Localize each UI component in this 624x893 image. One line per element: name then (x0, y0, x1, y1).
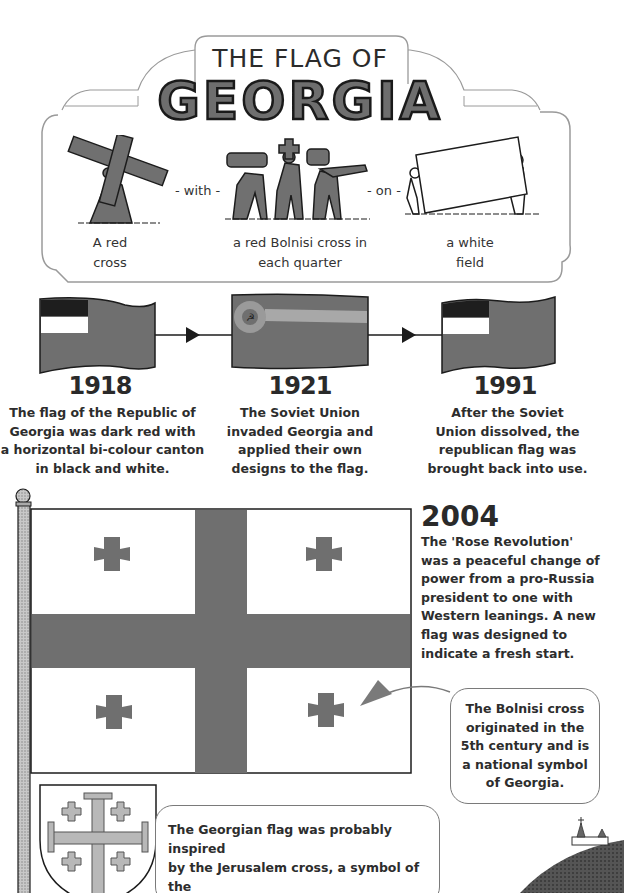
text-line: designs to the flag. (220, 460, 380, 479)
arrow-right-icon (402, 327, 416, 343)
year-1918: 1918 (50, 372, 150, 400)
jerusalem-text: The Georgian flag was probably inspired … (168, 820, 438, 893)
flag-cross-horizontal (32, 614, 410, 668)
text-line: brought back into use. (425, 460, 590, 479)
text-line: Georgia was dark red with (0, 423, 205, 442)
text-line: The Soviet Union (220, 404, 380, 423)
caption-red-cross: A red cross (75, 233, 145, 273)
flagpole-finial (16, 489, 30, 503)
text-line: After the Soviet (425, 404, 590, 423)
text-2004: The 'Rose Revolution' was a peaceful cha… (421, 533, 621, 663)
text-line: originated in the (460, 719, 590, 738)
text-line: a horizontal bi-colour canton (0, 441, 205, 460)
caption-line: cross (75, 253, 145, 273)
flag-1991 (442, 297, 555, 373)
text-line: in black and white. (0, 460, 205, 479)
caption-white-field: a white field (430, 233, 510, 273)
text-line: applied their own (220, 441, 380, 460)
text-1991: After the Soviet Union dissolved, the re… (425, 404, 590, 478)
men-carrying-white-field-illustration (405, 118, 540, 220)
svg-text:☭: ☭ (246, 312, 255, 323)
text-line: The 'Rose Revolution' (421, 533, 621, 552)
hill-with-church (520, 817, 624, 893)
text-line: of Georgia. (460, 774, 590, 793)
caption-bolnisi-cross: a red Bolnisi cross in each quarter (215, 233, 385, 273)
caption-line: each quarter (215, 253, 385, 273)
text-line: Western leanings. A new (421, 607, 621, 626)
flag-1921: ☭ (232, 294, 368, 368)
text-line: flag was designed to (421, 626, 621, 645)
caption-line: A red (75, 233, 145, 253)
arrow-right-icon (186, 327, 200, 343)
text-line: power from a pro-Russia (421, 570, 621, 589)
text-1918: The flag of the Republic of Georgia was … (0, 404, 205, 478)
callout-text: The Bolnisi cross originated in the 5th … (460, 700, 590, 793)
title-line-1: THE FLAG OF (190, 44, 410, 73)
text-line: Union dissolved, the (425, 423, 590, 442)
flag-timeline: ☭ (0, 285, 624, 375)
text-line: indicate a fresh start. (421, 645, 621, 664)
text-line: by the Jerusalem cross, a symbol of the (168, 858, 438, 893)
connector-on: - on - (367, 183, 401, 198)
text-line: a national symbol (460, 756, 590, 775)
man-carrying-cross-illustration (60, 135, 170, 225)
connector-with: - with - (175, 183, 220, 198)
caption-line: a white (430, 233, 510, 253)
text-line: invaded Georgia and (220, 423, 380, 442)
text-line: republican flag was (425, 441, 590, 460)
text-1921: The Soviet Union invaded Georgia and app… (220, 404, 380, 478)
text-line: was a peaceful change of (421, 552, 621, 571)
jerusalem-cross-shield (40, 785, 156, 893)
text-line: The Bolnisi cross (460, 700, 590, 719)
caption-line: field (430, 253, 510, 273)
flag-2004 (31, 509, 411, 773)
year-1991: 1991 (455, 372, 555, 400)
flag-1918 (40, 298, 155, 373)
men-carrying-bolnisi-crosses-illustration (225, 135, 370, 225)
year-1921: 1921 (250, 372, 350, 400)
text-line: 5th century and is (460, 737, 590, 756)
text-line: The flag of the Republic of (0, 404, 205, 423)
text-line: president to one with (421, 589, 621, 608)
text-line: The Georgian flag was probably inspired (168, 820, 438, 858)
caption-line: a red Bolnisi cross in (215, 233, 385, 253)
year-2004: 2004 (421, 500, 499, 533)
flagpole (18, 505, 30, 893)
